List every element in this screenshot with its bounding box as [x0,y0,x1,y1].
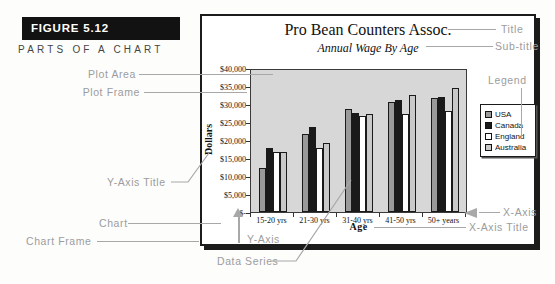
callout-plot-frame: Plot Frame [55,86,140,98]
bar-australia-3 [409,95,416,212]
legend-swatch-icon [485,122,492,129]
chart-frame-leader-line [97,241,199,242]
bar-usa-1 [302,134,309,212]
y-tick-label: $20,000 [202,137,246,146]
x-axis-arrow-icon [464,208,477,218]
figure-number-label: FIGURE 5.12 [22,17,180,40]
y-tick-label: $25,000 [202,119,246,128]
bar-australia-4 [452,88,459,212]
x-axis-leader-line [479,212,500,213]
bar-england-3 [402,114,409,212]
legend-entry: Canada [485,120,532,131]
bar-usa-3 [388,102,395,212]
bar-usa-2 [345,109,352,212]
x-tick-mark [250,213,251,217]
y-tick-label: $15,000 [202,155,246,164]
y-tick-mark [246,159,250,160]
bar-england-2 [359,116,366,212]
legend-name: Australia [495,143,526,152]
plot-area-leader-line [139,74,273,75]
legend-name: Canada [495,121,523,130]
subtitle-leader-line [426,46,493,47]
figure-caption: PARTS OF A CHART [18,44,164,55]
y-tick-mark [246,177,250,178]
chart-legend: USACanadaEnglandAustralia [480,104,536,157]
bar-england-4 [445,111,452,212]
bar-usa-0 [259,168,266,212]
y-tick-mark [246,69,250,70]
callout-chart-frame: Chart Frame [26,235,92,247]
legend-entry: Australia [485,142,532,153]
bar-canada-2 [352,113,359,212]
chart-leader-line [128,223,221,224]
callout-legend: Legend [488,74,527,86]
legend-entry: USA [485,109,532,120]
callout-sub-title: Sub-title [495,40,539,52]
x-axis-title-leader-line [374,227,466,228]
y-tick-label: $35,000 [202,83,246,92]
bar-australia-2 [366,114,373,212]
callout-x-axis: X-Axis [503,206,537,218]
bar-australia-0 [280,152,287,212]
callout-x-axis-title: X-Axis Title [469,221,529,233]
y-tick-label: $5,000 [202,191,246,200]
y-tick-mark [246,195,250,196]
y-tick-label: $30,000 [202,101,246,110]
legend-swatch-icon [485,111,492,118]
y-tick-mark [246,123,250,124]
callout-title: Title [501,23,523,35]
bar-canada-4 [438,97,445,212]
x-tick-mark [422,213,423,217]
bar-england-0 [273,152,280,212]
bar-usa-4 [431,98,438,212]
x-tick-mark [379,213,380,217]
bar-australia-1 [323,143,330,212]
y-tick-mark [246,105,250,106]
callout-chart: Chart [99,217,128,229]
y-tick-mark [246,141,250,142]
y-tick-label: $10,000 [202,173,246,182]
legend-name: USA [495,110,511,119]
bar-canada-0 [266,148,273,212]
x-tick-mark [336,213,337,217]
y-tick-mark [246,87,250,88]
chart-subtitle: Annual Wage By Age [202,41,534,56]
callout-plot-area: Plot Area [60,68,136,80]
legend-leader-line [521,88,522,137]
legend-swatch-icon [485,144,492,151]
bar-england-1 [316,148,323,212]
chart-title: Pro Bean Counters Assoc. [202,21,534,39]
callout-data-series: Data Series [217,255,278,267]
y-axis-arrow-icon [233,208,243,217]
callout-y-axis-title: Y-Axis Title [107,176,166,188]
plot-area [250,69,467,213]
title-leader-line [448,29,496,30]
bar-canada-1 [309,127,316,212]
y-tick-label: $40,000 [202,65,246,74]
y-axis-arrow-shaft [238,217,240,243]
legend-name: England [495,132,524,141]
bar-canada-3 [395,100,402,212]
x-tick-mark [293,213,294,217]
plot-frame-leader-line [144,92,247,93]
legend-swatch-icon [485,133,492,140]
callout-y-axis: Y-Axis [247,233,280,245]
legend-entry: England [485,131,532,142]
